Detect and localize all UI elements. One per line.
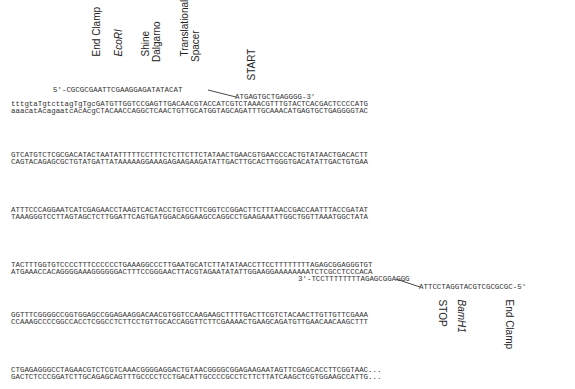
label-ecori: EcoRI: [102, 29, 124, 62]
label-end-clamp-top-text: End Clamp: [91, 7, 102, 56]
sequence-bottom-strand: TAAAGGGTCCTTAGTAGCTCTTGGATTCAGTGATGGACAG…: [11, 213, 368, 221]
label-bamh1: BamH1: [456, 294, 478, 333]
reverse-primer-right: ATTCCTAGGTACGTCGCGCGC-5': [419, 283, 526, 291]
sequence-bottom-strand: aaacatAcagaatcAcAcgCTACAACCAGGCTCAACTGTT…: [11, 107, 368, 115]
label-translational-spacer: Translational Spacer: [168, 0, 201, 62]
label-translational-spacer-text: Translational Spacer: [179, 0, 201, 62]
label-start-text: START: [246, 49, 257, 81]
label-ecori-text: EcoRI: [113, 29, 124, 56]
sequence-bottom-strand: GACTCTCCCGGATCTTGCAGAGCAGTTTGCCCCTCCTGAC…: [11, 373, 381, 381]
label-end-clamp-top: End Clamp: [80, 7, 102, 62]
label-end-clamp-bottom: End Clamp: [504, 294, 526, 349]
label-bamh1-text: BamH1: [456, 300, 467, 333]
forward-primer-left: 5'-CGCGCGAATTCGAAGGAGATATACAT: [53, 86, 182, 94]
label-start: START: [235, 49, 257, 86]
label-end-clamp-bottom-text: End Clamp: [504, 300, 515, 349]
sequence-bottom-strand: CAGTACAGAGCGCTGTATGATTATAAAAAGGAAAGAGAAG…: [11, 158, 368, 166]
label-shine-dalgarno: Shine Dalgarno: [129, 21, 162, 62]
sequence-bottom-strand: CCAAAGCCCCGGCCACCTCGGCCTCTTCCTGTTGCACCAG…: [11, 318, 368, 326]
label-shine-dalgarno-text: Shine Dalgarno: [140, 21, 162, 62]
label-stop-text: STOP: [437, 300, 448, 327]
reverse-primer-left: 3'-TCCTTTTTTTTAGAGCGGAGGG: [298, 275, 410, 283]
forward-primer-connector: [208, 90, 236, 97]
